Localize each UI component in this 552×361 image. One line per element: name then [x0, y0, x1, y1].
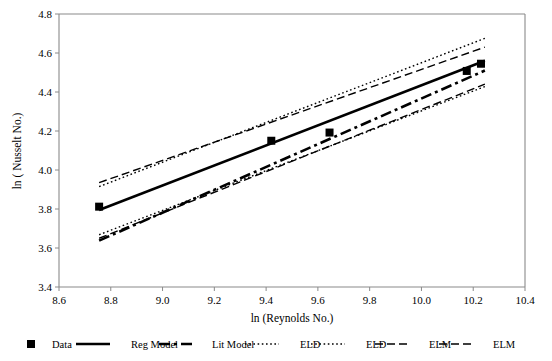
y-tick-label: 4.8: [38, 8, 52, 20]
x-tick-label: 8.8: [104, 294, 118, 306]
series-line-reg-model-1: [99, 61, 485, 210]
y-tick-label: 3.8: [38, 203, 52, 215]
plot-frame: [59, 14, 525, 287]
data-point-marker: [463, 67, 471, 75]
legend-label: Lit Model: [212, 339, 254, 350]
x-tick-label: 8.6: [52, 294, 66, 306]
x-axis-ticks: 8.68.89.09.29.49.69.810.010.210.4: [52, 287, 535, 306]
legend-label: Data: [52, 339, 72, 350]
data-point-marker: [95, 203, 103, 211]
x-tick-label: 9.8: [363, 294, 377, 306]
y-tick-label: 4.0: [38, 164, 52, 176]
y-tick-label: 4.2: [38, 125, 52, 137]
legend-label: ELM: [493, 339, 516, 350]
y-tick-label: 3.4: [38, 281, 52, 293]
x-axis-title: ln (Reynolds No.): [251, 312, 334, 325]
chart-container: 3.43.63.84.04.24.44.64.8 8.68.89.09.29.4…: [0, 0, 552, 361]
y-axis-ticks: 3.43.63.84.04.24.44.64.8: [38, 8, 59, 293]
data-point-marker: [267, 137, 275, 145]
x-tick-label: 10.2: [464, 294, 483, 306]
data-point-marker: [326, 129, 334, 137]
series-line-eld-3: [99, 38, 485, 186]
x-tick-label: 10.4: [515, 294, 535, 306]
x-tick-label: 9.4: [259, 294, 273, 306]
series-line-elm-6: [99, 84, 485, 238]
series-line-elm-5: [99, 47, 485, 183]
data-point-marker: [477, 60, 485, 68]
y-tick-label: 4.6: [38, 47, 52, 59]
series-layer: [99, 38, 485, 240]
x-tick-label: 9.2: [207, 294, 221, 306]
legend-item-eld-3[interactable]: ELD: [245, 339, 321, 350]
x-tick-label: 9.6: [311, 294, 325, 306]
legend-label: ELD: [300, 339, 321, 350]
legend-item-data-0[interactable]: Data: [27, 339, 72, 350]
y-tick-label: 3.6: [38, 242, 52, 254]
legend-label: Reg Model: [131, 339, 178, 350]
chart-legend: DataReg ModelLit ModelELDELDELMELM: [27, 339, 516, 350]
chart-svg: 3.43.63.84.04.24.44.64.8 8.68.89.09.29.4…: [0, 0, 552, 361]
x-tick-label: 10.0: [412, 294, 432, 306]
y-axis-title: ln ( Nusselt No.): [11, 113, 24, 190]
legend-marker-square-icon: [27, 340, 35, 348]
y-tick-label: 4.4: [38, 86, 52, 98]
x-tick-label: 9.0: [156, 294, 170, 306]
